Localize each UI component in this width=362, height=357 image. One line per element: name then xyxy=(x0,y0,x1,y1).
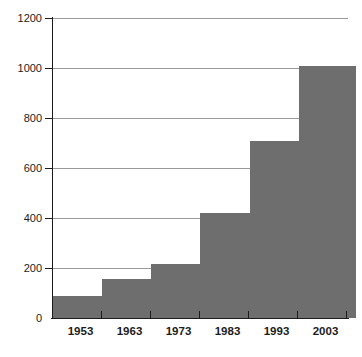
x-axis-tick-0 xyxy=(101,311,102,319)
x-axis-tick-5 xyxy=(346,311,347,319)
bar-1983 xyxy=(200,213,257,318)
y-axis-label-1200: 1200 xyxy=(2,13,42,24)
x-axis-label-1973: 1973 xyxy=(154,325,203,338)
bar-2003 xyxy=(299,66,356,319)
x-axis-line xyxy=(51,318,349,319)
x-axis-tick-3 xyxy=(248,311,249,319)
bar-chart: 1200 1000 800 600 400 200 0 1953 xyxy=(0,0,362,357)
x-axis-tick-1 xyxy=(150,311,151,319)
y-axis-label-200: 200 xyxy=(2,263,42,274)
y-axis-label-1000: 1000 xyxy=(2,63,42,74)
x-axis-tick-2 xyxy=(199,311,200,319)
x-axis-label-1983: 1983 xyxy=(203,325,252,338)
x-axis-label-2003: 2003 xyxy=(301,325,350,338)
y-axis-label-800: 800 xyxy=(2,113,42,124)
x-axis-tick-4 xyxy=(297,311,298,319)
y-axis-label-600: 600 xyxy=(2,163,42,174)
x-axis-label-1953: 1953 xyxy=(56,325,105,338)
x-axis-label-1993: 1993 xyxy=(252,325,301,338)
y-axis-label-0: 0 xyxy=(2,313,42,324)
x-axis-label-1963: 1963 xyxy=(105,325,154,338)
y-axis-line xyxy=(52,17,53,319)
y-axis-label-400: 400 xyxy=(2,213,42,224)
bars-layer xyxy=(52,18,348,318)
y-axis-labels: 1200 1000 800 600 400 200 0 xyxy=(0,0,42,357)
